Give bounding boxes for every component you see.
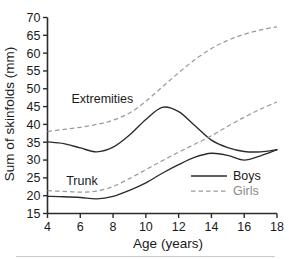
y-tick-label: 40 — [27, 118, 41, 132]
x-axis-title: Age (years) — [133, 236, 203, 251]
y-tick-label: 15 — [27, 207, 41, 221]
series-line-boys-extremities — [48, 107, 278, 152]
y-tick-label: 60 — [27, 47, 41, 61]
chart-canvas: Sum of skinfolds (mm) 152025303540455055… — [0, 0, 289, 259]
curve-annotation-trunk: Trunk — [66, 174, 98, 188]
y-tick-label: 20 — [27, 189, 41, 203]
chart-legend: BoysGirls — [191, 169, 261, 198]
legend-label-boys: Boys — [233, 169, 261, 183]
legend-label-girls: Girls — [233, 184, 259, 198]
y-tick-label: 55 — [27, 64, 41, 78]
y-tick-label: 35 — [27, 136, 41, 150]
y-tick-label: 65 — [27, 29, 41, 43]
x-tick-label: 4 — [44, 220, 51, 234]
y-tick-label: 70 — [27, 11, 41, 25]
y-tick-label: 50 — [27, 82, 41, 96]
x-tick-label: 14 — [204, 220, 218, 234]
y-tick-label: 25 — [27, 171, 41, 185]
series-line-girls-extremities — [48, 27, 278, 132]
y-tick-label: 30 — [27, 153, 41, 167]
x-tick-label: 8 — [110, 220, 117, 234]
y-axis-tick-labels: 152025303540455055606570 — [27, 11, 41, 221]
curve-annotation-extremities: Extremities — [72, 92, 134, 106]
x-axis-tick-labels: 4681012141618 — [44, 220, 284, 234]
x-tick-label: 10 — [139, 220, 153, 234]
x-tick-label: 16 — [237, 220, 251, 234]
x-tick-label: 6 — [77, 220, 84, 234]
y-axis-title: Sum of skinfolds (mm) — [2, 47, 17, 181]
skinfolds-line-chart: Sum of skinfolds (mm) 152025303540455055… — [0, 0, 289, 259]
x-tick-label: 12 — [172, 220, 186, 234]
x-tick-label: 18 — [270, 220, 284, 234]
y-tick-label: 45 — [27, 100, 41, 114]
